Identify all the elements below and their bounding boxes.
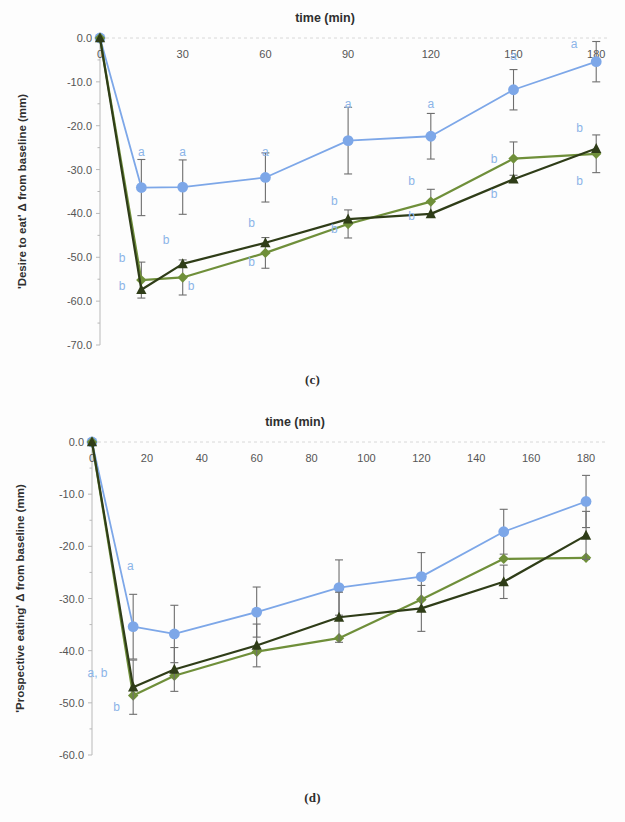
significance-annotation: a, b: [87, 666, 107, 680]
data-point-circle: [343, 135, 354, 146]
x-tick-label: 160: [522, 452, 540, 464]
y-tick-label: -20.0: [67, 120, 92, 132]
significance-annotation: b: [331, 194, 338, 208]
y-tick-label: -40.0: [67, 207, 92, 219]
data-point-circle: [498, 526, 509, 537]
significance-annotation: b: [119, 251, 126, 265]
data-point-diamond: [499, 554, 509, 564]
significance-annotation: b: [576, 174, 583, 188]
x-tick-label: 180: [577, 452, 595, 464]
y-tick-label: -30.0: [67, 164, 92, 176]
significance-annotation: b: [113, 700, 120, 714]
data-point-triangle: [499, 576, 509, 586]
y-tick-label: -10.0: [59, 488, 84, 500]
x-tick-label: 120: [412, 452, 430, 464]
data-point-circle: [334, 582, 345, 593]
significance-annotation: b: [491, 187, 498, 201]
y-tick-label: -50.0: [67, 251, 92, 263]
x-axis-title: time (min): [295, 11, 355, 25]
panel-c-caption: (c): [0, 370, 625, 388]
y-tick-label: -50.0: [59, 697, 84, 709]
x-tick-label: 60: [251, 452, 263, 464]
chart-d-container: time (min)0.0-10.0-20.0-30.0-40.0-50.0-6…: [0, 400, 625, 790]
x-tick-label: 40: [196, 452, 208, 464]
y-axis-title: 'Prospective eating' Δ from baseline (mm…: [14, 484, 26, 713]
significance-annotation: a: [510, 49, 517, 63]
y-tick-label: -20.0: [59, 540, 84, 552]
x-tick-label: 60: [259, 48, 271, 60]
y-tick-label: -60.0: [67, 295, 92, 307]
significance-annotation: a: [179, 145, 186, 159]
y-tick-label: -60.0: [59, 749, 84, 761]
data-point-diamond: [426, 196, 436, 206]
data-point-diamond: [508, 153, 518, 163]
data-point-triangle: [581, 530, 591, 540]
data-point-circle: [416, 571, 427, 582]
prospective-eating-chart: time (min)0.0-10.0-20.0-30.0-40.0-50.0-6…: [0, 400, 625, 790]
significance-annotation: b: [491, 152, 498, 166]
significance-annotation: a: [138, 145, 145, 159]
significance-annotation: b: [188, 279, 195, 293]
significance-annotation: a: [127, 559, 134, 573]
data-point-diamond: [178, 272, 188, 282]
significance-annotation: a: [427, 97, 434, 111]
data-point-circle: [136, 182, 147, 193]
data-point-circle: [508, 84, 519, 95]
data-point-circle: [581, 496, 592, 507]
x-tick-label: 20: [141, 452, 153, 464]
significance-annotation: b: [408, 174, 415, 188]
x-tick-label: 100: [357, 452, 375, 464]
significance-annotation: b: [576, 121, 583, 135]
data-point-circle: [128, 621, 139, 632]
significance-annotation: b: [408, 209, 415, 223]
x-tick-label: 30: [177, 48, 189, 60]
significance-annotation: b: [331, 222, 338, 236]
significance-annotation: b: [119, 279, 126, 293]
significance-annotation: a: [571, 37, 578, 51]
y-tick-label: -30.0: [59, 593, 84, 605]
x-tick-label: 80: [305, 452, 317, 464]
data-point-circle: [425, 131, 436, 142]
y-tick-label: 0.0: [69, 436, 84, 448]
data-point-circle: [260, 172, 271, 183]
panel-d-caption: (d): [0, 790, 625, 806]
figure-panel-d: time (min)0.0-10.0-20.0-30.0-40.0-50.0-6…: [0, 400, 625, 822]
x-axis-title: time (min): [265, 415, 325, 429]
data-point-circle: [177, 182, 188, 193]
x-tick-label: 140: [467, 452, 485, 464]
significance-annotation: b: [163, 233, 170, 247]
y-tick-label: 0.0: [77, 32, 92, 44]
x-tick-label: 90: [342, 48, 354, 60]
data-point-diamond: [260, 248, 270, 258]
x-tick-label: 120: [422, 48, 440, 60]
y-axis-title: 'Desire to eat' Δ from baseline (mm): [16, 94, 28, 289]
figure-panel-c: time (min)0.0-10.0-20.0-30.0-40.0-50.0-6…: [0, 0, 625, 400]
significance-annotation: a: [262, 145, 269, 159]
chart-c-container: time (min)0.0-10.0-20.0-30.0-40.0-50.0-6…: [0, 0, 625, 370]
data-point-triangle: [136, 284, 146, 294]
y-tick-label: -10.0: [67, 76, 92, 88]
data-point-triangle: [591, 143, 601, 153]
significance-annotation: a: [345, 97, 352, 111]
data-point-circle: [591, 56, 602, 67]
y-tick-label: -70.0: [67, 339, 92, 351]
y-tick-label: -40.0: [59, 645, 84, 657]
desire-to-eat-chart: time (min)0.0-10.0-20.0-30.0-40.0-50.0-6…: [0, 0, 625, 370]
data-point-circle: [251, 607, 262, 618]
data-point-circle: [169, 629, 180, 640]
significance-annotation: b: [248, 216, 255, 230]
significance-annotation: b: [248, 255, 255, 269]
